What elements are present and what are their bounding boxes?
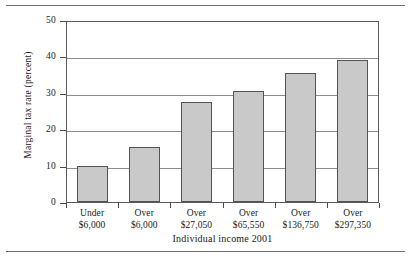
bar[interactable] bbox=[285, 73, 316, 202]
y-axis-tick-label: 40 bbox=[16, 52, 56, 62]
bar-slot bbox=[222, 22, 274, 202]
y-axis-tick-label: 50 bbox=[16, 16, 56, 26]
y-axis-tick-label: 0 bbox=[16, 198, 56, 208]
bar-series bbox=[67, 22, 378, 202]
x-axis-category-label-line1: Over bbox=[275, 208, 327, 220]
x-axis-category-label: Over$6,000 bbox=[118, 208, 170, 231]
bar[interactable] bbox=[77, 166, 108, 202]
x-axis-category-label-line1: Over bbox=[223, 208, 275, 220]
x-axis-category-label: Over$65,550 bbox=[223, 208, 275, 231]
x-axis-category-label: Under$6,000 bbox=[66, 208, 118, 231]
figure: Marginal tax rate (percent) 01020304050 … bbox=[0, 0, 411, 260]
bar-slot bbox=[274, 22, 326, 202]
x-axis-tick-labels: Under$6,000Over$6,000Over$27,050Over$65,… bbox=[66, 208, 379, 231]
bar-slot bbox=[171, 22, 223, 202]
bar[interactable] bbox=[233, 91, 264, 202]
bottom-divider-rule bbox=[6, 251, 405, 252]
top-divider-rule bbox=[6, 5, 405, 6]
bar-slot bbox=[67, 22, 119, 202]
x-axis-category-label-line2: $6,000 bbox=[118, 220, 170, 232]
bar[interactable] bbox=[181, 102, 212, 202]
bar-slot bbox=[326, 22, 378, 202]
y-axis-tick-label: 30 bbox=[16, 89, 56, 99]
bar[interactable] bbox=[337, 60, 368, 202]
x-axis-category-label-line2: $297,350 bbox=[327, 220, 379, 232]
x-axis-tick bbox=[379, 203, 380, 208]
bar[interactable] bbox=[129, 147, 160, 202]
y-axis-tick-label: 10 bbox=[16, 162, 56, 172]
x-axis-category-label: Over$297,350 bbox=[327, 208, 379, 231]
x-axis-category-label: Over$136,750 bbox=[275, 208, 327, 231]
x-axis-category-label-line2: $27,050 bbox=[170, 220, 222, 232]
x-axis-category-label-line2: $6,000 bbox=[66, 220, 118, 232]
bar-slot bbox=[119, 22, 171, 202]
plot-area bbox=[66, 21, 379, 203]
x-axis-category-label-line1: Over bbox=[327, 208, 379, 220]
x-axis-category-label-line1: Under bbox=[66, 208, 118, 220]
x-axis-category-label-line1: Over bbox=[170, 208, 222, 220]
x-axis-category-label: Over$27,050 bbox=[170, 208, 222, 231]
x-axis-category-label-line1: Over bbox=[118, 208, 170, 220]
x-axis-category-label-line2: $65,550 bbox=[223, 220, 275, 232]
x-axis-title: Individual income 2001 bbox=[66, 233, 379, 244]
y-axis-tick-label: 20 bbox=[16, 125, 56, 135]
x-axis-category-label-line2: $136,750 bbox=[275, 220, 327, 232]
